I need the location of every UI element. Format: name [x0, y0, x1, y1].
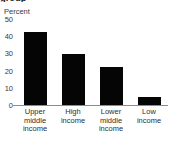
y-tick-label-20: 20: [5, 68, 13, 76]
chart-title-clipped: group: [0, 0, 171, 2]
y-tick-label-30: 30: [5, 51, 13, 59]
x-axis-category-labels: Upper middle income High income Lower mi…: [16, 108, 168, 134]
chart-title: group: [0, 0, 171, 2]
bar-group: [16, 20, 168, 105]
bar-slot-upper-middle-income: [16, 20, 54, 105]
category-label-high-income: High income: [54, 108, 92, 134]
bar-slot-lower-middle-income: [92, 20, 130, 105]
y-tick-label-50: 50: [5, 16, 13, 24]
bar-high-income: [62, 54, 85, 105]
bar-slot-high-income: [54, 20, 92, 105]
category-label-upper-middle-income: Upper middle income: [16, 108, 54, 134]
category-label-low-income: Low income: [130, 108, 168, 134]
bar-low-income: [138, 97, 161, 106]
bar-upper-middle-income: [24, 32, 47, 105]
bar-slot-low-income: [130, 20, 168, 105]
bar-chart-figure: group Percent 50 40 30 20 10 0 Upper mid…: [0, 0, 171, 142]
bar-lower-middle-income: [100, 67, 123, 105]
plot-area: 50 40 30 20 10 0: [16, 20, 168, 106]
x-axis-line: [13, 105, 168, 106]
category-label-lower-middle-income: Lower middle income: [92, 108, 130, 134]
y-tick-label-10: 10: [5, 85, 13, 93]
y-tick-label-40: 40: [5, 33, 13, 41]
y-tick-label-0: 0: [9, 102, 13, 110]
